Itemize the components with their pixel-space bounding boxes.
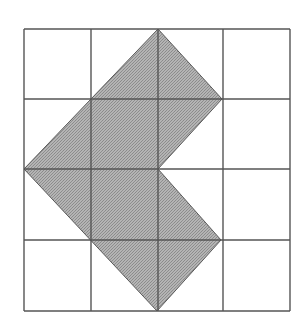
shaded-chevron-shape xyxy=(24,29,222,311)
grid-diagram xyxy=(0,0,296,320)
chevron-polygon xyxy=(24,29,222,311)
